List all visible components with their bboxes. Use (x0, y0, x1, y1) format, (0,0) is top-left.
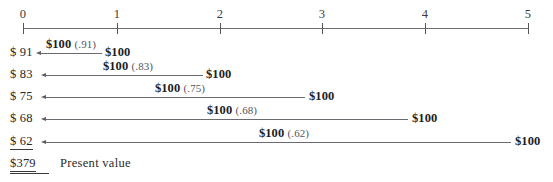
discount-label-5: $100 (.62) (259, 127, 309, 140)
present-value-row-4: $ 68 (10, 112, 33, 125)
present-value-row-3: $ 75 (10, 90, 33, 103)
axis-tick-5 (528, 23, 529, 34)
future-amount-4: $100 (412, 112, 437, 125)
discount-arrow-line-2 (46, 75, 203, 76)
discount-label-3: $100 (.75) (155, 82, 205, 95)
discount-label-factor-3: (.75) (184, 82, 206, 94)
discount-label-1: $100 (.91) (46, 38, 96, 51)
future-amount-1: $100 (105, 46, 130, 59)
present-value-total: $379 (10, 157, 36, 172)
axis-tick-label-0: 0 (13, 8, 33, 20)
discount-arrow-line-5 (46, 142, 511, 143)
axis-tick-label-2: 2 (210, 8, 230, 20)
discount-label-2: $100 (.83) (103, 60, 153, 73)
discount-label-factor-2: (.83) (132, 60, 154, 72)
timeline-axis-line (23, 28, 529, 29)
axis-tick-label-5: 5 (518, 8, 538, 20)
present-value-caption: Present value (60, 157, 131, 170)
discount-arrow-line-4 (46, 119, 408, 120)
present-value-row-5: $ 62 (10, 135, 33, 150)
discount-label-amount-3: $100 (155, 81, 180, 95)
discount-label-amount-4: $100 (207, 103, 232, 117)
future-amount-2: $100 (206, 68, 231, 81)
present-value-row-2: $ 83 (10, 68, 33, 81)
discount-label-amount-5: $100 (259, 126, 284, 140)
axis-tick-label-3: 3 (312, 8, 332, 20)
axis-tick-1 (117, 23, 118, 34)
discount-label-4: $100 (.68) (207, 104, 257, 117)
future-amount-5: $100 (515, 135, 540, 148)
discount-label-factor-4: (.68) (236, 104, 258, 116)
discount-arrow-line-1 (41, 53, 102, 54)
axis-tick-0 (23, 23, 24, 34)
axis-tick-2 (220, 23, 221, 34)
axis-tick-4 (425, 23, 426, 34)
axis-tick-label-1: 1 (107, 8, 127, 20)
present-value-timeline-diagram: 0 1 2 3 4 5 $ 91 $100 (.91) $100 $ 83 $1… (0, 0, 553, 182)
discount-label-amount-1: $100 (46, 37, 71, 51)
discount-label-amount-2: $100 (103, 59, 128, 73)
axis-tick-3 (322, 23, 323, 34)
future-amount-3: $100 (309, 90, 334, 103)
discount-label-factor-5: (.62) (288, 127, 310, 139)
axis-tick-label-4: 4 (415, 8, 435, 20)
discount-arrow-line-3 (46, 97, 305, 98)
present-value-row-1: $ 91 (10, 46, 33, 59)
discount-label-factor-1: (.91) (75, 38, 97, 50)
total-double-underline (10, 173, 49, 174)
